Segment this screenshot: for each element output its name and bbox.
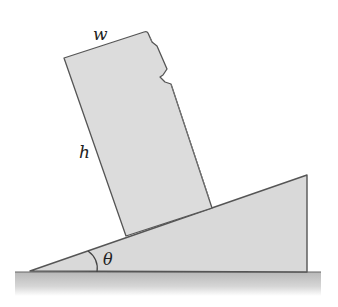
height-label: h xyxy=(79,142,90,162)
ground xyxy=(15,272,321,296)
block xyxy=(64,32,212,236)
incline-diagram: w h θ xyxy=(0,0,338,307)
width-label: w xyxy=(93,24,108,44)
angle-label: θ xyxy=(103,250,113,269)
